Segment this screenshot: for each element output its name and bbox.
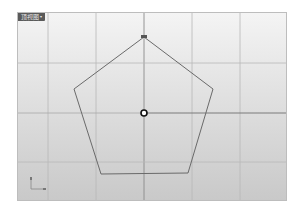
viewport-title: 顶视图 xyxy=(21,13,39,21)
grid xyxy=(18,13,287,201)
top-viewport[interactable]: 顶视图 ▾ xyxy=(17,12,287,201)
x-axis-tip-icon xyxy=(43,188,46,190)
axis-widget xyxy=(30,177,46,190)
viewport-title-tab[interactable]: 顶视图 ▾ xyxy=(18,13,45,21)
viewport-canvas[interactable] xyxy=(18,13,287,201)
y-axis-tip-icon xyxy=(30,177,32,180)
origin-marker[interactable] xyxy=(141,110,147,116)
chevron-down-icon[interactable]: ▾ xyxy=(40,13,42,21)
top-vertex-marker[interactable] xyxy=(141,35,147,38)
